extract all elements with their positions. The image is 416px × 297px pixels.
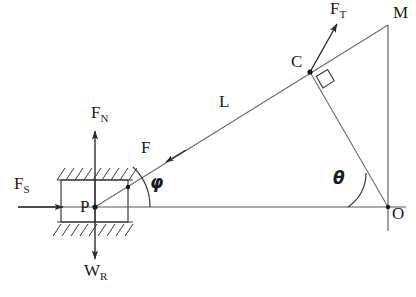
applied-force-F-arrow [166, 150, 186, 162]
upper-hatching [57, 168, 137, 180]
force-label-weight: WR [84, 262, 107, 279]
angle-arc-theta [348, 173, 366, 207]
force-base-WR: W [84, 261, 100, 280]
force-base-F: F [141, 138, 150, 157]
angle-arc-phi [133, 167, 150, 207]
force-sub-FS: S [23, 183, 29, 195]
point-label-P: P [80, 198, 89, 215]
force-label-normal: FN [91, 104, 108, 121]
force-label-static-friction: FS [14, 175, 30, 192]
angle-label-phi: φ [150, 174, 163, 191]
force-sub-FT: T [339, 8, 346, 20]
force-label-tension: FT [330, 0, 346, 17]
point-dot-P [92, 204, 97, 209]
point-dot-O [386, 205, 390, 209]
line-C-to-O [310, 72, 388, 207]
force-sub-WR: R [100, 270, 107, 282]
segment-label-L: L [219, 93, 229, 110]
force-sub-FN: N [100, 112, 108, 124]
right-angle-marker-icon [316, 70, 334, 88]
mechanics-diagram-figure: P C M O FS FN WR F FT L φ θ [0, 0, 416, 297]
point-label-C: C [291, 53, 302, 70]
force-label-applied-F: F [141, 139, 150, 156]
point-dot-cable-block-corner [126, 185, 130, 189]
angle-label-theta: θ [333, 170, 345, 187]
point-label-O: O [392, 205, 404, 222]
diagram-canvas [0, 0, 416, 297]
point-label-M: M [393, 4, 408, 21]
lower-hatching [53, 224, 133, 236]
point-dot-C [307, 69, 312, 74]
